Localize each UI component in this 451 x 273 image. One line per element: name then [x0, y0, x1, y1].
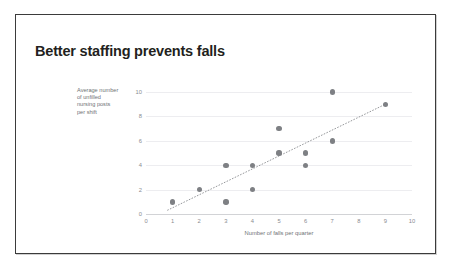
- x-tick-label: 3: [224, 218, 227, 224]
- data-point: [330, 138, 335, 143]
- y-tick-label: 10: [136, 89, 142, 95]
- data-point: [276, 150, 281, 155]
- y-tick-label: 4: [139, 162, 142, 168]
- y-axis-label-line-3: nursing posts: [77, 101, 141, 108]
- slide-canvas: Better staffing prevents falls Average n…: [15, 14, 436, 254]
- data-point: [276, 126, 281, 131]
- data-point: [303, 150, 308, 155]
- data-point: [330, 89, 335, 94]
- y-axis-label-line-4: per shift: [77, 109, 141, 116]
- y-axis-label: Average number of unfilled nursing posts…: [77, 87, 141, 116]
- x-tick-label: 4: [251, 218, 254, 224]
- data-point: [383, 102, 388, 107]
- x-tick-label: 9: [384, 218, 387, 224]
- plot-area: 0246810 012345678910 Number of falls per…: [146, 92, 412, 214]
- y-axis-label-line-1: Average number: [77, 87, 141, 94]
- x-tick-label: 6: [304, 218, 307, 224]
- data-point: [223, 163, 228, 168]
- y-tick-label: 8: [139, 113, 142, 119]
- data-point: [223, 199, 228, 204]
- y-tick-label: 0: [139, 211, 142, 217]
- x-tick-label: 8: [357, 218, 360, 224]
- scatter-chart: Average number of unfilled nursing posts…: [34, 75, 420, 245]
- x-axis-label: Number of falls per quarter: [245, 230, 314, 236]
- data-point: [170, 199, 175, 204]
- y-tick-label: 2: [139, 187, 142, 193]
- x-tick-label: 0: [144, 218, 147, 224]
- x-tick-label: 7: [331, 218, 334, 224]
- x-tick-label: 1: [171, 218, 174, 224]
- x-tick-label: 2: [198, 218, 201, 224]
- x-tick-label: 10: [409, 218, 415, 224]
- data-point: [250, 163, 255, 168]
- y-tick-label: 6: [139, 138, 142, 144]
- page-title: Better staffing prevents falls: [35, 43, 225, 59]
- x-axis-line: [146, 214, 412, 215]
- y-axis-label-line-2: of unfilled: [77, 94, 141, 101]
- x-tick-label: 5: [277, 218, 280, 224]
